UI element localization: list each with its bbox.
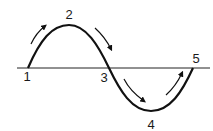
point-label-4: 4 <box>147 118 154 131</box>
point-label-5: 5 <box>192 52 199 65</box>
sine-wave-diagram <box>0 0 213 131</box>
point-label-1: 1 <box>23 70 30 83</box>
point-label-3: 3 <box>100 71 107 84</box>
point-label-2: 2 <box>65 8 72 21</box>
